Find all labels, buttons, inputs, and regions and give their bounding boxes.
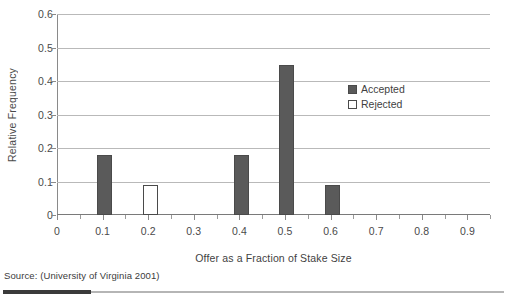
bar-accepted-0.4 — [234, 155, 249, 215]
y-tick-label-0.5: 0.5 — [7, 42, 53, 54]
gridline-0.1 — [57, 182, 490, 183]
y-tick-mark-0.2 — [51, 148, 56, 149]
x-tick-mark-0.8 — [422, 215, 423, 220]
y-tick-mark-0.5 — [51, 48, 56, 49]
x-tick-mark-0.6 — [331, 215, 332, 220]
x-tick-mark-minor-0.25 — [171, 215, 172, 219]
x-tick-label-0.3: 0.3 — [174, 225, 214, 237]
y-tick-mark-0 — [51, 215, 56, 216]
x-tick-label-0.4: 0.4 — [219, 225, 259, 237]
y-tick-mark-0.4 — [51, 81, 56, 82]
y-tick-label-0.2: 0.2 — [7, 142, 53, 154]
y-tick-mark-0.3 — [51, 115, 56, 116]
bar-accepted-0.1 — [97, 155, 112, 215]
x-tick-label-0.1: 0.1 — [83, 225, 123, 237]
bar-accepted-0.6 — [325, 185, 340, 215]
x-axis-title: Offer as a Fraction of Stake Size — [57, 252, 490, 264]
x-axis-ticks: 0 0.1 0.2 0.3 0.4 0.5 0.6 0.7 0.8 0.9 — [57, 215, 490, 255]
x-tick-label-0.7: 0.7 — [356, 225, 396, 237]
x-tick-label-0.6: 0.6 — [311, 225, 351, 237]
y-axis-ticks: 0.6 0.5 0.4 0.3 0.2 0.1 0 — [0, 0, 53, 300]
x-tick-mark-minor-0.65 — [353, 215, 354, 219]
x-tick-mark-minor-0.55 — [308, 215, 309, 219]
x-tick-mark-minor-0.05 — [80, 215, 81, 219]
y-tick-label-0: 0 — [7, 209, 53, 221]
x-tick-mark-minor-0.85 — [445, 215, 446, 219]
x-tick-label-0: 0 — [37, 225, 77, 237]
legend-item-accepted: Accepted — [348, 82, 405, 96]
x-tick-mark-0.3 — [194, 215, 195, 220]
x-tick-mark-0.1 — [103, 215, 104, 220]
x-tick-label-0.2: 0.2 — [128, 225, 168, 237]
y-tick-label-0.4: 0.4 — [7, 75, 53, 87]
y-tick-mark-0.6 — [51, 14, 56, 15]
x-tick-mark-minor-0.75 — [399, 215, 400, 219]
legend-swatch-accepted-icon — [348, 85, 357, 94]
plot-area — [57, 14, 490, 215]
gridline-0.3 — [57, 115, 490, 116]
y-tick-label-0.1: 0.1 — [7, 176, 53, 188]
y-tick-label-0.6: 0.6 — [7, 8, 53, 20]
x-tick-mark-0.2 — [148, 215, 149, 220]
gridline-0.4 — [57, 81, 490, 82]
bar-rejected-0.2 — [143, 185, 158, 215]
gridline-0.2 — [57, 148, 490, 149]
legend-label-accepted: Accepted — [361, 83, 405, 95]
x-tick-mark-minor-0.35 — [217, 215, 218, 219]
gridline-0.5 — [57, 48, 490, 49]
x-tick-mark-0 — [57, 215, 58, 220]
x-tick-mark-minor-0.45 — [262, 215, 263, 219]
x-tick-mark-0.5 — [285, 215, 286, 220]
footer-rule-accent — [3, 290, 91, 294]
x-tick-mark-minor-0.95 — [490, 215, 491, 219]
gridline-0.6 — [57, 14, 490, 15]
x-tick-mark-minor-0.15 — [125, 215, 126, 219]
x-tick-label-0.5: 0.5 — [265, 225, 305, 237]
x-tick-mark-0.4 — [239, 215, 240, 220]
x-tick-label-0.9: 0.9 — [447, 225, 487, 237]
x-tick-label-0.8: 0.8 — [402, 225, 442, 237]
chart-legend: Accepted Rejected — [348, 82, 405, 112]
bar-accepted-0.5 — [279, 65, 294, 215]
x-tick-mark-0.9 — [467, 215, 468, 220]
x-tick-mark-0.7 — [376, 215, 377, 220]
y-tick-label-0.3: 0.3 — [7, 109, 53, 121]
legend-item-rejected: Rejected — [348, 97, 405, 111]
legend-label-rejected: Rejected — [361, 98, 402, 110]
source-note: Source: (University of Virginia 2001) — [4, 270, 160, 281]
chart-figure: Relative Frequency 0.6 0.5 0.4 0.3 0.2 0… — [0, 0, 507, 300]
y-tick-mark-0.1 — [51, 182, 56, 183]
legend-swatch-rejected-icon — [348, 100, 357, 109]
